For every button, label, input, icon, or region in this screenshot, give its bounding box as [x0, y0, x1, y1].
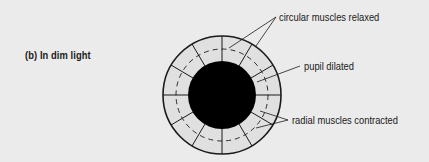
pupil: [188, 61, 256, 129]
label-pupil: pupil dilated: [304, 60, 354, 72]
label-radial-muscles: radial muscles contracted: [292, 114, 398, 126]
eye-diagram: [0, 0, 429, 162]
label-circular-muscles: circular muscles relaxed: [279, 11, 379, 23]
